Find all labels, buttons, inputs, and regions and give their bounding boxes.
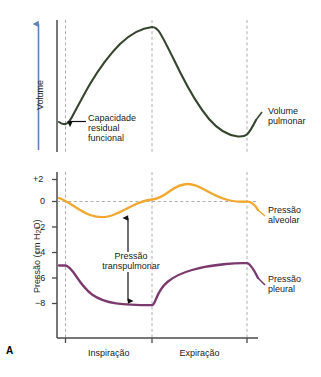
lung-volume-series-label-line2: pulmonar xyxy=(268,116,306,126)
ytick-label-minus2: −2 xyxy=(35,222,45,232)
leader-pressao-alveolar xyxy=(258,210,265,216)
lung-volume-series-label: Volume pulmonar xyxy=(268,106,306,126)
frc-annotation-line2: residual xyxy=(88,123,136,133)
frc-annotation: Capacidade residual funcional xyxy=(88,113,136,143)
leader-pressao-pleural xyxy=(258,278,265,285)
phase-label-expiracao: Expiração xyxy=(152,348,247,358)
panel-letter: A xyxy=(6,345,13,356)
leader-volume-pulmonar xyxy=(256,112,262,120)
alveolar-pressure-curve xyxy=(59,184,258,217)
ytick-label-minus6: −6 xyxy=(35,273,45,283)
phase-label-inspiracao: Inspiração xyxy=(66,348,153,358)
cycle-gridlines xyxy=(66,20,248,338)
ytick-label-plus2: +2 xyxy=(33,174,43,184)
ytick-label-zero: 0 xyxy=(40,196,45,206)
series-label-leaders xyxy=(256,112,265,285)
ytick-label-minus8: −8 xyxy=(35,298,45,308)
bottom-panel-y-axis-label: Pressão (cm H2O) xyxy=(22,220,53,303)
alveolar-pressure-series-label: Pressão alveolar xyxy=(268,205,301,225)
figure-canvas xyxy=(0,0,321,377)
transpulmonary-annotation: Pressão transpulmonar xyxy=(94,251,168,271)
frc-annotation-line3: funcional xyxy=(88,133,136,143)
bottom-panel-y-axis-label-main: Pressão (cm H xyxy=(32,233,42,293)
transpulmonary-annotation-line2: transpulmonar xyxy=(94,261,168,271)
top-panel-y-axis-label: Volume xyxy=(35,80,45,110)
lung-volume-series-label-line1: Volume xyxy=(268,106,306,116)
transpulmonary-annotation-line1: Pressão xyxy=(94,251,168,261)
frc-annotation-line1: Capacidade xyxy=(88,113,136,123)
alveolar-pressure-series-label-line1: Pressão xyxy=(268,205,301,215)
pleural-pressure-series-label-line2: pleural xyxy=(268,284,301,294)
ytick-label-minus4: −4 xyxy=(35,247,45,257)
pleural-pressure-series-label-line1: Pressão xyxy=(268,274,301,284)
pleural-pressure-series-label: Pressão pleural xyxy=(268,274,301,294)
alveolar-pressure-series-label-line2: alveolar xyxy=(268,215,301,225)
respiratory-cycle-figure: Volume Capacidade residual funcional Vol… xyxy=(0,0,321,377)
